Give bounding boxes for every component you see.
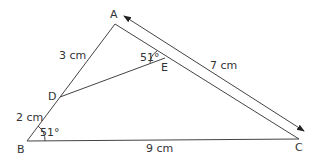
- point-label-b: B: [17, 144, 25, 155]
- point-label-a: A: [110, 9, 118, 20]
- angle-label-e: 51°: [140, 52, 160, 63]
- side-bc: [27, 139, 299, 141]
- length-label-ac: 7 cm: [210, 60, 237, 71]
- diagram-lines: [0, 0, 319, 164]
- side-ac: [115, 24, 299, 139]
- length-label-db: 2 cm: [16, 112, 43, 123]
- point-label-c: C: [295, 142, 303, 153]
- angle-label-b: 51°: [40, 127, 60, 138]
- point-label-d: D: [48, 91, 56, 102]
- point-label-e: E: [161, 62, 168, 73]
- length-arrow-ac: [124, 16, 304, 131]
- length-label-bc: 9 cm: [146, 143, 173, 154]
- triangle-diagram: A B C D E 3 cm 2 cm 7 cm 9 cm 51° 51°: [0, 0, 319, 164]
- length-label-ad: 3 cm: [59, 50, 86, 61]
